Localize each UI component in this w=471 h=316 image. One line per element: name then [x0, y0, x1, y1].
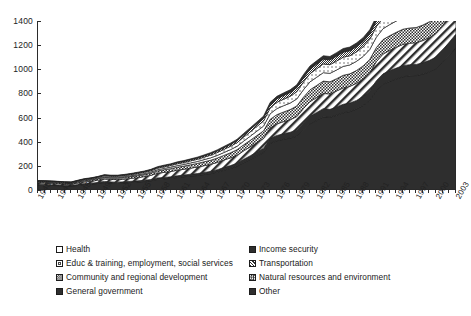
legend-item[interactable]: General government — [56, 285, 143, 298]
legend-swatch-icon — [56, 274, 63, 281]
y-axis-tick-label: 200 — [18, 161, 33, 171]
x-axis-tick-label: 2003 — [454, 180, 471, 200]
legend-item[interactable]: Natural resources and environment — [249, 271, 390, 284]
x-axis-tick-mark — [183, 190, 184, 193]
y-axis-tick-label: 600 — [18, 113, 33, 123]
x-axis-tick-mark — [163, 190, 164, 193]
x-axis-tick-mark — [176, 190, 177, 193]
y-axis-tick-label: 0 — [28, 185, 33, 195]
x-axis-tick-mark — [117, 190, 118, 193]
legend-swatch-icon — [249, 260, 256, 267]
legend-swatch-icon — [56, 246, 63, 253]
y-axis-tick-label: 400 — [18, 137, 33, 147]
legend-swatch-icon — [249, 246, 256, 253]
x-axis-tick-mark — [44, 190, 45, 193]
y-axis-tick-label: 1400 — [13, 16, 33, 26]
x-axis-tick-mark — [170, 190, 171, 193]
x-axis-tick-mark — [243, 190, 244, 193]
x-axis-tick-mark — [369, 190, 370, 193]
stacked-area-svg — [38, 21, 456, 190]
y-axis-tick-label: 1200 — [13, 40, 33, 50]
plot-area — [37, 21, 455, 190]
legend-item[interactable]: Community and regional development — [56, 271, 207, 284]
legend-item[interactable]: Health — [56, 243, 90, 256]
x-axis-tick-mark — [355, 190, 356, 193]
legend-item[interactable]: Educ & training, employment, social serv… — [56, 257, 233, 270]
x-axis-tick-mark — [395, 190, 396, 193]
x-axis-tick-mark — [143, 190, 144, 193]
legend-label: Community and regional development — [66, 273, 207, 281]
legend-label: Educ & training, employment, social serv… — [66, 259, 233, 267]
x-axis-tick-mark — [64, 190, 65, 193]
y-axis-tick-mark — [37, 45, 41, 46]
x-axis-tick-mark — [123, 190, 124, 193]
x-axis-tick-mark — [296, 190, 297, 193]
x-axis-tick-mark — [435, 190, 436, 193]
x-axis-tick-mark — [229, 190, 230, 193]
x-axis-tick-mark — [362, 190, 363, 193]
legend-swatch-icon — [56, 288, 63, 295]
x-axis-tick-mark — [137, 190, 138, 193]
legend-label: Natural resources and environment — [259, 273, 390, 281]
y-axis-labels: 0200400600800100012001400 — [0, 0, 33, 316]
x-axis-tick-mark — [382, 190, 383, 193]
y-axis-tick-label: 1000 — [13, 64, 33, 74]
chart-legend: HealthIncome securityEduc & training, em… — [56, 243, 456, 305]
x-axis-tick-mark — [428, 190, 429, 193]
legend-label: General government — [66, 287, 143, 295]
legend-item[interactable]: Other — [249, 285, 280, 298]
x-axis-tick-mark — [389, 190, 390, 193]
x-axis-tick-mark — [322, 190, 323, 193]
legend-item[interactable]: Transportation — [249, 257, 313, 270]
x-axis-tick-mark — [309, 190, 310, 193]
x-axis-tick-mark — [336, 190, 337, 193]
x-axis-tick-mark — [442, 190, 443, 193]
x-axis-tick-mark — [269, 190, 270, 193]
x-axis-tick-mark — [77, 190, 78, 193]
x-axis-tick-mark — [375, 190, 376, 193]
x-axis-tick-mark — [210, 190, 211, 193]
x-axis-tick-mark — [203, 190, 204, 193]
x-axis-tick-mark — [130, 190, 131, 193]
x-axis-tick-mark — [57, 190, 58, 193]
x-axis-tick-mark — [196, 190, 197, 193]
x-axis-tick-mark — [422, 190, 423, 193]
x-axis-tick-mark — [349, 190, 350, 193]
x-axis-tick-mark — [409, 190, 410, 193]
x-axis-tick-mark — [150, 190, 151, 193]
x-axis-tick-mark — [216, 190, 217, 193]
x-axis-tick-mark — [276, 190, 277, 193]
x-axis-tick-mark — [97, 190, 98, 193]
y-axis-tick-mark — [37, 142, 41, 143]
x-axis-tick-mark — [342, 190, 343, 193]
x-axis-tick-mark — [190, 190, 191, 193]
legend-item[interactable]: Income security — [249, 243, 318, 256]
x-axis-tick-mark — [156, 190, 157, 193]
x-axis-tick-mark — [329, 190, 330, 193]
legend-swatch-icon — [249, 288, 256, 295]
legend-swatch-icon — [56, 260, 63, 267]
y-axis-tick-mark — [37, 118, 41, 119]
x-axis-tick-mark — [110, 190, 111, 193]
y-axis-tick-mark — [37, 93, 41, 94]
x-axis-tick-mark — [90, 190, 91, 193]
y-axis-tick-mark — [37, 69, 41, 70]
x-axis-tick-mark — [455, 190, 456, 193]
y-axis-tick-mark — [37, 190, 41, 191]
legend-label: Transportation — [259, 259, 313, 267]
x-axis-tick-mark — [83, 190, 84, 193]
x-axis-tick-mark — [103, 190, 104, 193]
legend-label: Other — [259, 287, 280, 295]
x-axis-tick-mark — [256, 190, 257, 193]
x-axis-tick-mark — [415, 190, 416, 193]
x-axis-tick-mark — [263, 190, 264, 193]
x-axis-tick-mark — [70, 190, 71, 193]
x-axis-tick-mark — [289, 190, 290, 193]
x-axis-tick-mark — [448, 190, 449, 193]
x-axis-tick-mark — [236, 190, 237, 193]
y-axis-tick-label: 800 — [18, 88, 33, 98]
y-axis-tick-mark — [37, 166, 41, 167]
x-axis-tick-mark — [223, 190, 224, 193]
legend-swatch-icon — [249, 274, 256, 281]
